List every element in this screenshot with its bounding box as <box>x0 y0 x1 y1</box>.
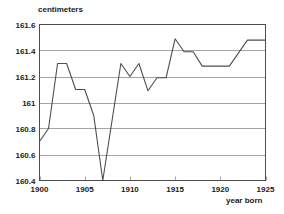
line-chart: centimeters year born 160.4160.6160.8161… <box>0 0 284 214</box>
gridlines <box>40 51 266 156</box>
x-axis-ticks <box>41 177 267 181</box>
plot-frame <box>40 25 266 181</box>
plot-area <box>0 0 284 214</box>
data-series-line <box>40 39 266 181</box>
